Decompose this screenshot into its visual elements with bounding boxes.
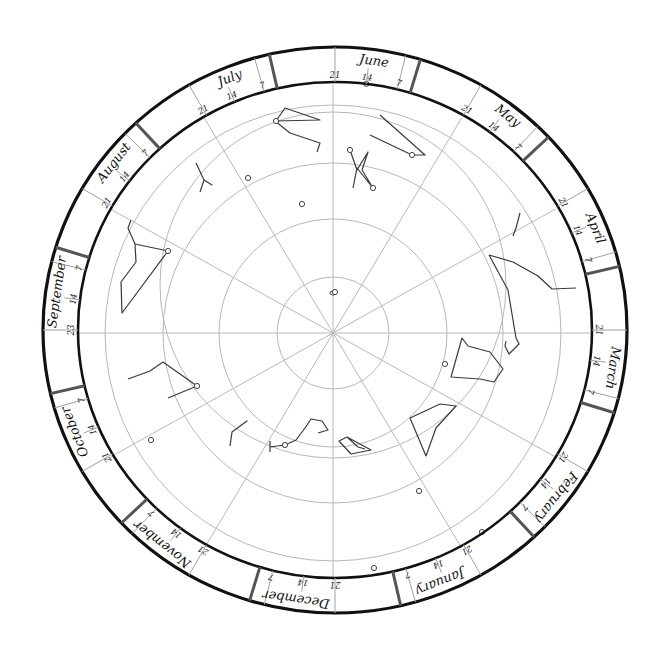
day-label: 7 — [403, 569, 412, 580]
month-label-june: June — [355, 51, 390, 70]
constellation-north-top-left — [275, 108, 320, 152]
constellations — [121, 108, 576, 456]
constellation-north-center — [350, 150, 373, 188]
star-marker — [148, 437, 153, 442]
month-divider — [581, 403, 614, 413]
month-divider — [523, 137, 549, 161]
month-divider — [56, 247, 89, 257]
month-label-april: April — [582, 209, 608, 245]
month-label-november: November — [130, 517, 195, 572]
month-divider — [136, 123, 160, 149]
radial-line — [333, 209, 556, 333]
constellation-south-quad — [339, 437, 371, 454]
star-marker — [245, 175, 250, 180]
star-marker — [370, 185, 375, 190]
month-label-september: September — [44, 254, 69, 329]
star-marker — [371, 565, 376, 570]
day-label: 7 — [267, 572, 275, 583]
star-marker — [347, 147, 352, 152]
day-label: 7 — [583, 256, 594, 265]
month-divider — [585, 266, 619, 274]
constellation-east-long — [489, 255, 576, 289]
month-divider — [121, 499, 147, 523]
star-marker — [273, 118, 278, 123]
day-label: 21 — [329, 70, 341, 80]
star-marker — [416, 488, 421, 493]
month-divider — [269, 54, 277, 88]
month-divider — [510, 511, 534, 537]
planisphere: 21147June21147May21147April21147March211… — [0, 0, 663, 648]
constellation-east-vertical — [489, 255, 519, 354]
constellation-southwest-bent — [128, 362, 197, 398]
day-label: 21 — [594, 324, 604, 336]
star-marker — [299, 201, 304, 206]
star-marker — [442, 361, 447, 366]
stars — [148, 81, 484, 570]
radial-line — [110, 209, 333, 333]
month-label-december: December — [261, 587, 332, 612]
month-divider — [50, 386, 84, 394]
day-label: 7 — [395, 77, 403, 88]
star-marker — [165, 248, 170, 253]
star-marker — [282, 442, 287, 447]
constellation-southeast-kite — [410, 404, 456, 456]
month-divider — [393, 572, 401, 606]
day-label: 14 — [68, 293, 79, 305]
month-divider — [250, 567, 260, 600]
day-label: 14 — [297, 577, 309, 588]
star-marker — [194, 383, 199, 388]
star-marker — [332, 289, 337, 294]
day-label: 7 — [76, 396, 87, 405]
day-label: 7 — [585, 388, 596, 396]
radial-line — [333, 333, 556, 457]
day-label: 7 — [74, 264, 85, 272]
month-label-february: February — [532, 468, 582, 526]
day-label: 14 — [591, 355, 602, 367]
day-label: 14 — [361, 71, 373, 82]
day-label: 21 — [330, 580, 342, 590]
day-label: 7 — [258, 79, 267, 90]
month-divider — [410, 59, 420, 92]
radial-line — [110, 333, 333, 457]
day-label: 23 — [66, 325, 76, 337]
constellation-northeast-small — [513, 213, 520, 236]
constellation-upper-left-y — [196, 163, 212, 192]
star-marker — [409, 152, 414, 157]
